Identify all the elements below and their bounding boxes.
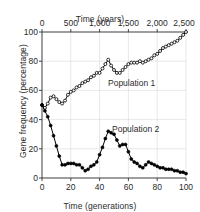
- chart-figure: Time (years) Time (generations) Gene fre…: [0, 0, 200, 212]
- plot-area: [0, 0, 200, 212]
- series-label-population-2: Population 2: [112, 124, 159, 134]
- axis-frame: [42, 32, 186, 178]
- gridlines: [42, 32, 186, 178]
- data-series: [41, 31, 188, 176]
- series-label-population-1: Population 1: [108, 78, 155, 88]
